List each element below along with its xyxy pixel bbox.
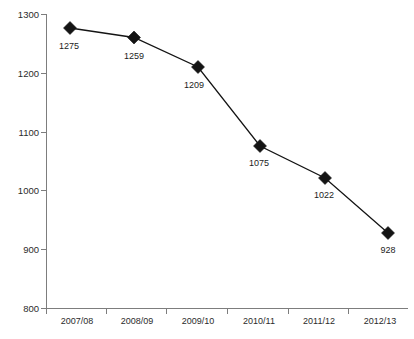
data-point-marker[interactable]: [192, 61, 205, 74]
x-tick-label: 2011/12: [303, 316, 335, 326]
y-tick-label: 1000: [18, 185, 39, 196]
chart-container: 1300 1200 1100 1000 900 800 2007/08 2008…: [0, 0, 414, 339]
axes-group: [47, 14, 409, 309]
x-tick-label: 2010/11: [243, 316, 275, 326]
y-tick-label: 900: [23, 244, 39, 255]
y-tick-label: 800: [23, 303, 39, 314]
y-tick-label: 1300: [18, 9, 39, 20]
data-markers-group: [64, 22, 395, 240]
data-labels-group: 1275 1259 1209 1075 1022 928: [59, 41, 396, 255]
line-chart: 1300 1200 1100 1000 900 800 2007/08 2008…: [0, 0, 414, 339]
x-axis-labels-group: 2007/08 2008/09 2009/10 2010/11 2011/12 …: [61, 316, 397, 326]
x-tick-label: 2008/09: [121, 316, 154, 326]
x-tick-label: 2009/10: [182, 316, 215, 326]
data-point-marker[interactable]: [128, 31, 141, 44]
data-point-label: 1259: [124, 51, 144, 61]
data-point-marker[interactable]: [254, 140, 267, 153]
y-tick-label: 1100: [19, 127, 39, 138]
x-tick-marks-group: [47, 309, 349, 315]
data-point-label: 1209: [184, 80, 204, 90]
y-axis-labels-group: 1300 1200 1100 1000 900 800: [18, 9, 39, 314]
data-series-line: [70, 28, 388, 233]
data-point-label: 1075: [249, 158, 269, 168]
data-point-label: 1022: [314, 190, 334, 200]
data-point-label: 1275: [59, 41, 79, 51]
data-point-label: 928: [380, 245, 395, 255]
data-point-marker[interactable]: [64, 22, 77, 35]
x-tick-label: 2007/08: [61, 316, 94, 326]
y-tick-label: 1200: [18, 68, 39, 79]
y-tick-marks-group: [41, 15, 47, 309]
x-tick-label: 2012/13: [364, 316, 397, 326]
